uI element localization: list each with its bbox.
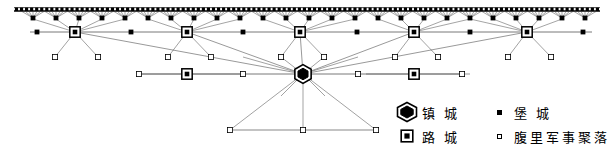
- legend-label-baocheng: 堡 城: [514, 103, 552, 122]
- legend-row-1: 镇 城 堡 城: [392, 100, 608, 124]
- figure-root: 镇 城 堡 城 路 城 腹里军事聚落: [0, 0, 610, 155]
- map-legend: 镇 城 堡 城 路 城 腹里军事聚落: [392, 100, 608, 148]
- great-wall-line: [14, 8, 600, 11]
- hexagon-double-filled-icon: [392, 101, 422, 123]
- legend-row-2: 路 城 腹里军事聚落: [392, 124, 608, 148]
- legend-label-lucheng: 路 城: [422, 127, 484, 146]
- square-in-square-icon: [392, 129, 422, 143]
- small-open-square-icon: [484, 134, 514, 139]
- legend-label-zhencheng: 镇 城: [422, 103, 484, 122]
- legend-label-fuli: 腹里军事聚落: [514, 127, 610, 146]
- small-filled-square-icon: [484, 110, 514, 115]
